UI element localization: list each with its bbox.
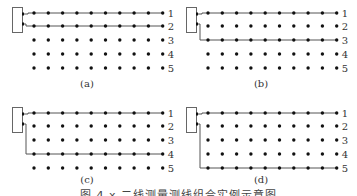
electrode-dot (292, 66, 295, 69)
electrode-dot (235, 24, 238, 27)
electrode-dot (206, 111, 209, 114)
electrode-dot (306, 66, 309, 69)
electrode-dot (61, 166, 64, 169)
electrode-dot (47, 52, 50, 55)
panel-label-c: (c) (80, 174, 93, 185)
electrode-dot (221, 24, 224, 27)
electrode-dot (147, 111, 150, 114)
electrode-dot (61, 11, 64, 14)
electrode-dot (61, 152, 64, 155)
electrode-dot (132, 152, 135, 155)
electrode-dot (235, 166, 238, 169)
panel-d: 12345 (d) (174, 100, 352, 192)
electrode-dot (90, 124, 93, 127)
electrode-dot (292, 24, 295, 27)
instrument-box (187, 8, 197, 33)
electrode-dot (278, 38, 281, 41)
electrode-dot (206, 52, 209, 55)
electrode-dot (61, 111, 64, 114)
electrode-dot (221, 11, 224, 14)
electrode-dot (118, 138, 121, 141)
electrode-dot (47, 11, 50, 14)
electrode-dot (104, 11, 107, 14)
electrode-dot (32, 111, 35, 114)
electrode-dot (161, 138, 164, 141)
electrode-dot (264, 66, 267, 69)
electrode-dot (47, 152, 50, 155)
electrode-dot (264, 24, 267, 27)
electrode-dot (118, 11, 121, 14)
electrode-dot (161, 38, 164, 41)
electrode-dot (75, 138, 78, 141)
measurement-line-row-1 (24, 13, 163, 14)
electrode-dot (292, 124, 295, 127)
electrode-dot (249, 11, 252, 14)
electrode-dot (161, 52, 164, 55)
electrode-dot (206, 152, 209, 155)
electrode-dot (32, 138, 35, 141)
electrode-dot (75, 11, 78, 14)
electrode-dot (90, 11, 93, 14)
electrode-dot (221, 38, 224, 41)
electrode-dot (32, 152, 35, 155)
electrode-dot (61, 38, 64, 41)
electrode-dot (61, 66, 64, 69)
electrode-dot (278, 152, 281, 155)
row-label-2: 2 (342, 21, 348, 32)
electrode-dot (118, 52, 121, 55)
panel-a: 12345 (a) (0, 0, 178, 92)
electrode-dot (278, 138, 281, 141)
electrode-dot (321, 52, 324, 55)
electrode-dot (335, 111, 338, 114)
electrode-dot (132, 166, 135, 169)
electrode-dot (75, 66, 78, 69)
electrode-dot (90, 24, 93, 27)
electrode-dot (47, 124, 50, 127)
row-label-1: 1 (342, 108, 348, 119)
electrode-dot (61, 24, 64, 27)
electrode-dot (221, 166, 224, 169)
electrode-dot (264, 111, 267, 114)
electrode-dot (235, 138, 238, 141)
electrode-dot (335, 152, 338, 155)
electrode-dot (104, 38, 107, 41)
row-label-5: 5 (342, 63, 348, 74)
figure-caption: 图 4.x 二线测量测线组合实例示意图 (0, 186, 357, 196)
electrode-dot (118, 166, 121, 169)
electrode-dot (75, 124, 78, 127)
electrode-dot (118, 124, 121, 127)
electrode-dot (235, 152, 238, 155)
electrode-dot (47, 111, 50, 114)
panel-b: 12345 (b) (174, 0, 352, 92)
electrode-dot (104, 152, 107, 155)
electrode-dot (221, 66, 224, 69)
electrode-dot (335, 124, 338, 127)
measurement-line-row-1 (24, 113, 163, 114)
electrode-dot (132, 138, 135, 141)
electrode-dot (321, 166, 324, 169)
electrode-dot (75, 52, 78, 55)
electrode-dot (278, 11, 281, 14)
measurement-line-row-1 (198, 113, 337, 114)
electrode-dot (104, 124, 107, 127)
electrode-dot (118, 111, 121, 114)
electrode-dot (47, 24, 50, 27)
electrode-dot (335, 38, 338, 41)
panel-label-a: (a) (80, 78, 94, 89)
electrode-dot (161, 66, 164, 69)
electrode-dot (264, 38, 267, 41)
electrode-dot (161, 124, 164, 127)
electrode-dot (147, 138, 150, 141)
electrode-dot (75, 38, 78, 41)
electrode-dot (306, 24, 309, 27)
electrode-dot (306, 111, 309, 114)
electrode-dot (32, 124, 35, 127)
electrode-dot (32, 52, 35, 55)
electrode-dot (90, 111, 93, 114)
row-label-4: 4 (342, 149, 348, 160)
electrode-dot (235, 111, 238, 114)
electrode-dot (61, 138, 64, 141)
measurement-line-row-4 (24, 124, 163, 154)
electrode-dot (206, 166, 209, 169)
electrode-dot (235, 11, 238, 14)
